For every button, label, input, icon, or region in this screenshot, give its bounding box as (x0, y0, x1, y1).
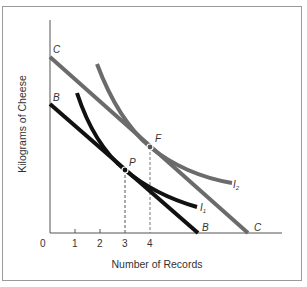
indifference-curve-i1 (77, 93, 197, 207)
y-axis-title: Kilograms of Cheese (16, 75, 28, 173)
point-p (122, 167, 128, 173)
x-tick-label-4: 4 (147, 238, 153, 249)
label-i1: I1 (200, 202, 206, 214)
x-tick-label-0: 0 (40, 238, 46, 249)
x-tick-label-1: 1 (72, 238, 78, 249)
label-b-top: B (53, 92, 60, 103)
x-tick-label-3: 3 (122, 238, 128, 249)
label-i2: I2 (233, 179, 240, 191)
label-f: F (155, 133, 162, 144)
label-p: P (129, 157, 136, 168)
label-c-top: C (53, 44, 61, 55)
label-b-bottom: B (202, 222, 209, 233)
x-axis-title: Number of Records (111, 258, 202, 270)
x-tick-label-2: 2 (97, 238, 103, 249)
point-f (147, 144, 153, 150)
label-c-bottom: C (254, 222, 262, 233)
chart-canvas: C B P F I2 I1 B C 0 1 2 3 4 Number of Re… (0, 0, 307, 287)
